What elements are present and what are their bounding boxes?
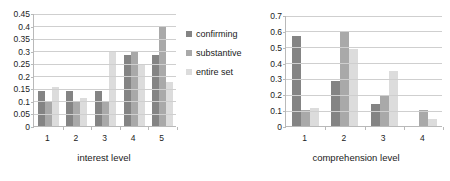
y-axis-tick-mark [31, 102, 34, 103]
bar-group [148, 14, 177, 126]
bar [95, 91, 102, 126]
legend-swatch-icon [186, 31, 192, 37]
gridline [34, 51, 176, 52]
y-axis-tick-label: 0.3 [18, 47, 30, 56]
gridline [34, 26, 176, 27]
bar [292, 36, 301, 126]
legend-item: substantive [186, 43, 256, 62]
gridline [34, 114, 176, 115]
bar [52, 87, 59, 126]
y-axis-tick-mark [31, 127, 34, 128]
y-axis-tick-label: 0.1 [270, 107, 282, 116]
gridline [286, 111, 442, 112]
legend-item: confirming [186, 24, 256, 43]
legend-item: entire set [186, 62, 256, 81]
y-axis-tick-mark [283, 48, 286, 49]
y-axis-tick-mark [283, 111, 286, 112]
x-axis-tick-mark [177, 127, 178, 130]
y-axis-tick-label: 0.7 [270, 12, 282, 21]
gridline [34, 76, 176, 77]
y-axis-tick-mark [31, 114, 34, 115]
bar-group [325, 16, 364, 126]
x-axis-tick-mark [148, 127, 149, 130]
x-axis-tick-mark [443, 127, 444, 130]
gridline [286, 16, 442, 17]
x-axis-tick-label: 2 [74, 133, 79, 143]
y-axis-tick-mark [283, 64, 286, 65]
bar [428, 119, 437, 126]
y-axis-tick-mark [31, 77, 34, 78]
x-axis-tick-mark [365, 127, 366, 130]
x-axis-tick-label: 3 [381, 133, 386, 143]
y-axis-tick-mark [31, 14, 34, 15]
bar-groups [34, 14, 176, 126]
x-axis-tick-mark [404, 127, 405, 130]
x-axis-tick-mark [91, 127, 92, 130]
gridline [34, 101, 176, 102]
bar-group [120, 14, 149, 126]
y-axis-tick-label: 0.4 [270, 59, 282, 68]
bar [38, 91, 45, 126]
interest-level-chart: 00.050.10.150.20.250.30.350.40.45 12345 … [0, 0, 186, 181]
bar [331, 81, 340, 126]
y-axis-tick-mark [283, 79, 286, 80]
x-axis-tick-mark [325, 127, 326, 130]
y-axis-tick-label: 0.6 [270, 28, 282, 37]
y-axis-tick-mark [31, 52, 34, 53]
y-axis-tick-label: 0.5 [270, 43, 282, 52]
y-axis-tick-mark [31, 64, 34, 65]
gridline [34, 39, 176, 40]
y-axis-tick-label: 0.4 [18, 22, 30, 31]
y-axis-tick-mark [31, 39, 34, 40]
bar [371, 104, 380, 126]
gridline [34, 89, 176, 90]
y-axis-tick-mark [31, 89, 34, 90]
x-axis-tick-mark [120, 127, 121, 130]
legend-swatch-icon [186, 50, 192, 56]
y-axis-tick-mark [283, 32, 286, 33]
x-axis-title: comprehension level [261, 152, 450, 163]
gridline [34, 64, 176, 65]
gridline [286, 47, 442, 48]
gridline [34, 14, 176, 15]
bar-groups [286, 16, 442, 126]
gridline [286, 31, 442, 32]
figure-container: 00.050.10.150.20.250.30.350.40.45 12345 … [0, 0, 450, 181]
x-axis-tick-label: 3 [102, 133, 107, 143]
x-axis-title: interest level [33, 152, 175, 163]
y-axis-tick-mark [31, 27, 34, 28]
chart-legend: confirmingsubstantiveentire set [186, 24, 256, 81]
y-axis-tick-label: 0.3 [270, 75, 282, 84]
y-axis-tick-label: 0.15 [13, 85, 30, 94]
bar [66, 91, 73, 126]
x-axis-tick-label: 4 [420, 133, 425, 143]
comprehension-level-chart: 00.10.20.30.40.50.60.7 1234 comprehensio… [256, 0, 450, 181]
bar [124, 55, 131, 126]
y-axis-tick-mark [283, 127, 286, 128]
y-axis-tick-label: 0.45 [13, 10, 30, 19]
bar-group [91, 14, 120, 126]
gridline [286, 95, 442, 96]
bar [349, 49, 358, 126]
y-axis-tick-mark [283, 16, 286, 17]
plot-area [285, 16, 442, 127]
bar-group [286, 16, 325, 126]
bar-group [365, 16, 404, 126]
bar [152, 55, 159, 126]
bar [138, 64, 145, 126]
gridline [286, 63, 442, 64]
bar [419, 110, 428, 126]
legend-item-label: confirming [196, 29, 238, 39]
y-axis-tick-label: 0.2 [270, 91, 282, 100]
y-axis-tick-label: 0 [25, 123, 30, 132]
y-axis-tick-mark [283, 95, 286, 96]
legend-item-label: substantive [196, 48, 242, 58]
y-axis-tick-label: 0 [277, 123, 282, 132]
x-axis-tick-label: 2 [342, 133, 347, 143]
y-axis-tick-label: 0.05 [13, 110, 30, 119]
legend-item-label: entire set [196, 67, 233, 77]
x-axis-tick-mark [63, 127, 64, 130]
x-axis-tick-label: 1 [302, 133, 307, 143]
x-axis-tick-label: 5 [159, 133, 164, 143]
y-axis-tick-label: 0.25 [13, 60, 30, 69]
